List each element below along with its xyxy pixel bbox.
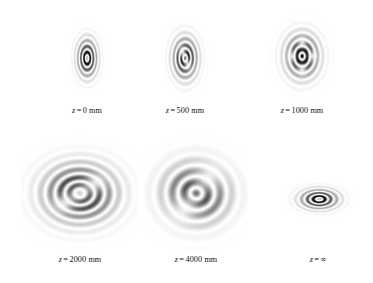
panel-caption-z0: z=0 mm xyxy=(47,106,127,115)
caption-equals: = xyxy=(169,106,177,115)
intensity-panel-z0 xyxy=(56,16,118,100)
intensity-panel-z2000 xyxy=(21,134,138,252)
panel-caption-z1000: z=1000 mm xyxy=(262,106,342,115)
caption-value: 2000 mm xyxy=(69,255,101,264)
caption-value: 4000 mm xyxy=(185,255,217,264)
caption-value: ∞ xyxy=(320,255,326,264)
intensity-map-z4000 xyxy=(144,134,248,252)
intensity-map-z2000 xyxy=(21,134,138,252)
intensity-panel-z1000 xyxy=(259,8,345,104)
panel-caption-z2000: z=2000 mm xyxy=(40,255,120,264)
intensity-map-z1000 xyxy=(259,8,345,104)
intensity-panel-z4000 xyxy=(144,134,248,252)
panel-caption-z500: z=500 mm xyxy=(145,106,225,115)
intensity-map-zinf xyxy=(277,163,361,235)
caption-value: 500 mm xyxy=(177,106,205,115)
caption-value: 1000 mm xyxy=(291,106,323,115)
intensity-panel-z500 xyxy=(148,12,222,104)
panel-caption-z4000: z=4000 mm xyxy=(156,255,236,264)
caption-equals: = xyxy=(75,106,83,115)
intensity-map-z500 xyxy=(148,12,222,104)
intensity-map-z0 xyxy=(56,16,118,100)
panel-caption-zinf: z=∞ xyxy=(285,255,351,264)
beam-propagation-figure: z=0 mm z=500 mm z=1000 mm z=2000 mm z=40… xyxy=(0,0,373,283)
intensity-panel-zinf xyxy=(277,163,361,235)
caption-value: 0 mm xyxy=(83,106,102,115)
